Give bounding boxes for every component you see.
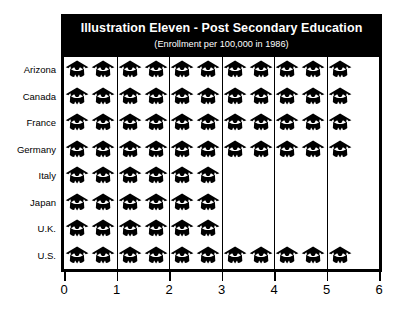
pictograph-icon-cell: [327, 246, 353, 266]
pictograph-icon-cell: [90, 219, 116, 239]
plot-inner: [64, 57, 379, 269]
graduation-cap-icon: [170, 219, 194, 239]
graduation-cap-icon: [65, 60, 89, 80]
pictograph-icon-cell: [143, 193, 169, 213]
pictograph-icon-cell: [222, 113, 248, 133]
graduation-cap-icon: [301, 246, 325, 266]
graduation-cap-icon: [249, 113, 273, 133]
pictograph-icon-cell: [143, 113, 169, 133]
pictograph-icon-cell: [300, 113, 326, 133]
graduation-cap-icon: [170, 140, 194, 160]
graduation-cap-icon: [275, 140, 299, 160]
graduation-cap-icon: [118, 60, 142, 80]
x-axis-tick-label: 2: [165, 283, 172, 296]
graduation-cap-icon: [196, 193, 220, 213]
pictograph-icon-cell: [169, 140, 195, 160]
x-axis-tick: [379, 272, 381, 281]
graduation-cap-icon: [118, 140, 142, 160]
pictograph-row: [64, 190, 379, 216]
graduation-cap-icon: [91, 166, 115, 186]
pictograph-icon-cell: [143, 140, 169, 160]
graduation-cap-icon: [328, 140, 352, 160]
pictograph-icon-cell: [64, 193, 90, 213]
pictograph-row: [64, 84, 379, 110]
y-axis-label-u-s: U.S.: [0, 251, 56, 261]
pictograph-icon-cell: [248, 60, 274, 80]
pictograph-icon-cell: [64, 219, 90, 239]
pictograph-icon-cell: [90, 246, 116, 266]
graduation-cap-icon: [275, 87, 299, 107]
pictograph-icon-cell: [169, 60, 195, 80]
graduation-cap-icon: [249, 60, 273, 80]
pictograph-icon-cell: [274, 60, 300, 80]
graduation-cap-icon: [223, 60, 247, 80]
pictograph-icon-cell: [64, 140, 90, 160]
y-axis-label-japan: Japan: [0, 198, 56, 208]
pictograph-icon-cell: [222, 140, 248, 160]
x-axis-tick: [64, 272, 66, 281]
graduation-cap-icon: [91, 219, 115, 239]
graduation-cap-icon: [249, 246, 273, 266]
pictograph-icon-cell: [195, 87, 221, 107]
graduation-cap-icon: [301, 113, 325, 133]
graduation-cap-icon: [91, 113, 115, 133]
pictograph-icon-cell: [143, 87, 169, 107]
graduation-cap-icon: [301, 87, 325, 107]
graduation-cap-icon: [91, 246, 115, 266]
pictograph-icon-cell: [300, 87, 326, 107]
pictograph-icon-cell: [64, 246, 90, 266]
pictograph-icon-cell: [195, 193, 221, 213]
x-axis-tick-label: 6: [375, 283, 382, 296]
pictograph-icon-cell: [117, 140, 143, 160]
graduation-cap-icon: [275, 246, 299, 266]
graduation-cap-icon: [144, 219, 168, 239]
y-axis-label-italy: Italy: [0, 171, 56, 181]
graduation-cap-icon: [328, 60, 352, 80]
pictograph-icon-cell: [117, 113, 143, 133]
graduation-cap-icon: [91, 193, 115, 213]
x-axis-tick: [169, 272, 171, 281]
x-axis-tick-label: 3: [218, 283, 225, 296]
pictograph-icon-cell: [90, 140, 116, 160]
graduation-cap-icon: [170, 246, 194, 266]
graduation-cap-icon: [118, 193, 142, 213]
pictograph-icon-cell: [222, 87, 248, 107]
pictograph-row: [64, 110, 379, 136]
pictograph-icon-cell: [117, 60, 143, 80]
graduation-cap-icon: [196, 246, 220, 266]
graduation-cap-icon: [223, 113, 247, 133]
x-axis-tick-label: 0: [60, 283, 67, 296]
graduation-cap-icon: [275, 113, 299, 133]
graduation-cap-icon: [65, 166, 89, 186]
graduation-cap-icon: [196, 87, 220, 107]
graduation-cap-icon: [144, 193, 168, 213]
pictograph-icon-cell: [90, 113, 116, 133]
graduation-cap-icon: [170, 113, 194, 133]
graduation-cap-icon: [144, 60, 168, 80]
pictograph-icon-cell: [90, 87, 116, 107]
pictograph-icon-cell: [143, 166, 169, 186]
pictograph-icon-cell: [169, 113, 195, 133]
graduation-cap-icon: [196, 60, 220, 80]
graduation-cap-icon: [65, 246, 89, 266]
x-axis-tick-label: 4: [270, 283, 277, 296]
graduation-cap-icon: [328, 246, 352, 266]
graduation-cap-icon: [118, 87, 142, 107]
pictograph-icon-cell: [300, 140, 326, 160]
pictograph-icon-cell: [327, 140, 353, 160]
x-axis-tick: [222, 272, 224, 281]
graduation-cap-icon: [144, 246, 168, 266]
chart-title: Illustration Eleven - Post Secondary Edu…: [81, 22, 363, 36]
pictograph-row: [64, 57, 379, 83]
pictograph-icon-cell: [64, 60, 90, 80]
pictograph-icon-cell: [195, 166, 221, 186]
pictograph-icon-cell: [169, 246, 195, 266]
pictograph-icon-cell: [248, 246, 274, 266]
pictograph-icon-cell: [248, 113, 274, 133]
pictograph-icon-cell: [143, 60, 169, 80]
pictograph-icon-cell: [300, 60, 326, 80]
pictograph-icon-cell: [117, 246, 143, 266]
y-axis-label-arizona: Arizona: [0, 65, 56, 75]
pictograph-icon-cell: [195, 113, 221, 133]
pictograph-icon-cell: [64, 113, 90, 133]
